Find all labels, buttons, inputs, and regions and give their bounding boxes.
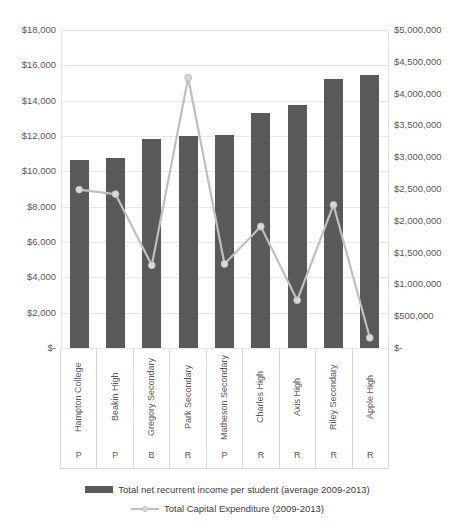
category-label: Matheson Secondary	[220, 353, 229, 441]
category-cell: Gregory SecondaryB	[133, 349, 170, 469]
right-axis-tick-label: $3,000,000	[394, 152, 455, 162]
category-cell: Hampton CollegeP	[60, 349, 97, 469]
left-axis-tick-label: $14,000	[0, 96, 56, 106]
left-axis-tick-label: $12,000	[0, 131, 56, 141]
category-label: Park Secondary	[184, 353, 193, 441]
line-data-point	[294, 297, 301, 304]
chart-container: $18,000$16,000$14,000$12,000$10,000$8,00…	[0, 0, 455, 532]
category-axis-table: Hampton CollegePBeakin HighPGregory Seco…	[61, 349, 389, 469]
line-series	[61, 30, 388, 348]
category-code: P	[207, 451, 242, 460]
right-axis-tick-label: $2,500,000	[394, 184, 455, 194]
legend-item-bar: Total net recurrent income per student (…	[85, 484, 369, 495]
right-axis-tick-label: $5,000,000	[394, 25, 455, 35]
line-data-point	[366, 334, 373, 341]
left-axis-tick-label: $18,000	[0, 25, 56, 35]
category-code: R	[170, 451, 205, 460]
legend-item-label: Total net recurrent income per student (…	[118, 484, 369, 495]
category-label: Charles High	[256, 353, 265, 441]
right-axis-tick-label: $4,000,000	[394, 89, 455, 99]
line-data-point	[112, 191, 119, 198]
category-label: Riley Secondary	[329, 353, 338, 441]
line-path	[79, 78, 370, 338]
line-marker-swatch-icon	[131, 505, 159, 513]
category-code: P	[97, 451, 132, 460]
category-cell: Charles HighR	[242, 349, 279, 469]
category-code: B	[134, 451, 169, 460]
category-code: P	[61, 451, 96, 460]
left-axis-tick-label: $6,000	[0, 237, 56, 247]
left-axis-tick-label: $-	[0, 343, 56, 353]
right-axis-tick-label: $500,000	[394, 311, 455, 321]
chart-legend: Total net recurrent income per student (…	[0, 484, 455, 514]
legend-item-line: Total Capital Expenditure (2009-2013)	[131, 503, 324, 514]
legend-item-label: Total Capital Expenditure (2009-2013)	[164, 503, 324, 514]
line-data-point	[221, 261, 228, 268]
line-data-point	[148, 262, 155, 269]
category-label: Axis High	[293, 353, 302, 441]
right-axis-tick-label: $1,500,000	[394, 248, 455, 258]
left-axis-tick-label: $4,000	[0, 272, 56, 282]
right-axis-tick-label: $4,500,000	[394, 57, 455, 67]
category-code: R	[316, 451, 351, 460]
category-label: Hampton College	[74, 353, 83, 441]
line-data-point	[257, 223, 264, 230]
bar-swatch-icon	[85, 486, 113, 493]
left-axis-tick-label: $16,000	[0, 60, 56, 70]
category-cell: Axis HighR	[279, 349, 316, 469]
right-axis-tick-label: $-	[394, 343, 455, 353]
right-axis-tick-label: $3,500,000	[394, 120, 455, 130]
category-code: R	[243, 451, 278, 460]
left-axis-tick-label: $10,000	[0, 166, 56, 176]
right-axis-tick-label: $1,000,000	[394, 279, 455, 289]
category-code: R	[353, 451, 388, 460]
left-axis-tick-label: $8,000	[0, 202, 56, 212]
plot-area	[61, 30, 388, 348]
line-data-point	[185, 74, 192, 81]
right-axis-tick-label: $2,000,000	[394, 216, 455, 226]
category-cell: Park SecondaryR	[169, 349, 206, 469]
category-label: Beakin High	[111, 353, 120, 441]
line-data-point	[76, 186, 83, 193]
right-axis-line	[388, 30, 389, 348]
category-cell: Matheson SecondaryP	[206, 349, 243, 469]
line-data-point	[330, 202, 337, 209]
category-label: Gregory Secondary	[147, 353, 156, 441]
category-cell: Beakin HighP	[96, 349, 133, 469]
category-cell: Apple HighR	[352, 349, 389, 469]
left-axis-tick-label: $2,000	[0, 308, 56, 318]
category-cell: Riley SecondaryR	[315, 349, 352, 469]
category-code: R	[280, 451, 315, 460]
category-label: Apple High	[366, 353, 375, 441]
